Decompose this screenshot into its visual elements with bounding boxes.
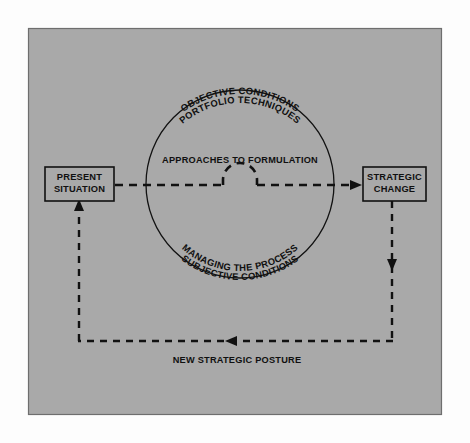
node-strategic-change[interactable]: STRATEGIC CHANGE xyxy=(363,167,426,201)
figure-root: OBJECTIVE CONDITIONS PORTFOLIO TECHNIQUE… xyxy=(0,0,470,443)
node-present-situation[interactable]: PRESENT SITUATION xyxy=(45,167,114,201)
node-strategic-change-line1: STRATEGIC xyxy=(367,172,422,182)
strategic-change-diagram: OBJECTIVE CONDITIONS PORTFOLIO TECHNIQUE… xyxy=(0,0,470,443)
node-strategic-change-line2: CHANGE xyxy=(374,184,416,194)
node-present-situation-line2: SITUATION xyxy=(54,184,105,194)
node-present-situation-line1: PRESENT xyxy=(57,172,102,182)
label-new-strategic-posture: NEW STRATEGIC POSTURE xyxy=(173,355,302,365)
